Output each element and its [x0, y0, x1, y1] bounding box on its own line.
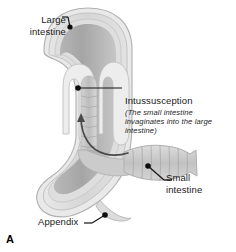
label-small-intestine: Small intestine [166, 172, 232, 195]
leader-dot-intussusception [75, 85, 81, 91]
invaginated-tube [81, 76, 97, 150]
figure-letter: A [6, 233, 14, 245]
leader-dot-small-intestine [145, 163, 151, 169]
label-large-intestine: Large intestine [4, 14, 66, 37]
leader-dot-large-intestine [67, 24, 72, 29]
label-intussusception-note: (The small intestine invaginates into th… [125, 108, 233, 135]
leader-dot-appendix [102, 212, 108, 218]
intussusception-figure: Large intestine Intussusception (The sma… [0, 0, 236, 252]
label-intussusception: Intussusception (The small intestine inv… [125, 83, 233, 146]
label-appendix: Appendix [38, 216, 102, 228]
label-intussusception-title: Intussusception [125, 95, 193, 106]
